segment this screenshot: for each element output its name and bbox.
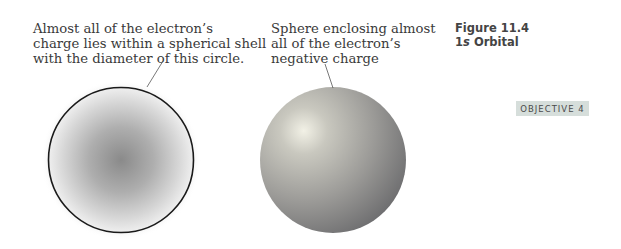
orbital-illustrations [0,0,621,249]
electron-cloud-cross-section [41,80,201,240]
right-leader-line [325,64,333,88]
left-leader-line [147,61,163,87]
orbital-sphere [260,87,406,233]
